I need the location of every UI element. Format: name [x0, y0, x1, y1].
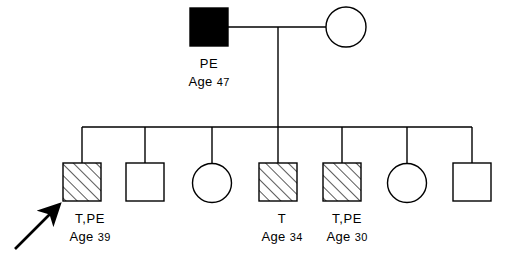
person-sibling-5-hatched-square[interactable]: [323, 163, 361, 201]
person-mother-unaffected-circle[interactable]: [326, 7, 366, 47]
person-sibling-4-hatched-square[interactable]: [259, 163, 297, 201]
person-sibling-1-hatched-square[interactable]: [63, 163, 101, 201]
generation-1-connectors: [228, 27, 326, 127]
person-sibling-6-unaffected-circle[interactable]: [388, 164, 427, 203]
proband-arrow-icon: [15, 206, 58, 249]
person-sibling-3-unaffected-circle[interactable]: [193, 164, 232, 203]
generation-2: [63, 163, 491, 203]
pedigree-chart: PE Age 47 T,PE Age 39 T Age 34 T,PE Age: [0, 0, 507, 269]
person-sibling-2-unaffected-square[interactable]: [126, 163, 164, 201]
pedigree-drawing: [0, 0, 507, 269]
person-father-affected-square[interactable]: [190, 8, 228, 46]
sibship-connectors: [82, 127, 472, 164]
person-sibling-7-unaffected-square[interactable]: [453, 163, 491, 201]
